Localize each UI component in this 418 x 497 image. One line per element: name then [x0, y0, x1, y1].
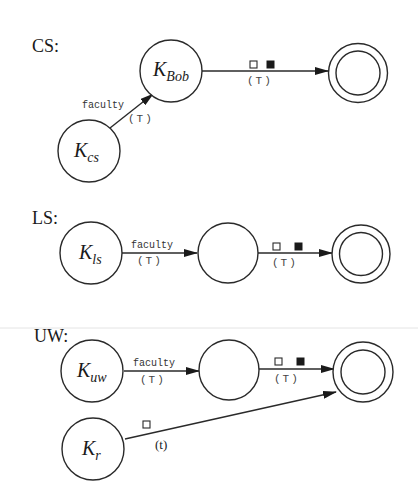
open-square-icon	[275, 358, 282, 365]
section-uw: UW: faculty (T) (T) (t) Kuw	[34, 326, 393, 480]
open-square-icon	[273, 243, 280, 250]
edge-label-faculty: faculty	[82, 100, 124, 111]
edge-annotation: (t)	[155, 437, 167, 452]
node-accept-ls	[332, 225, 390, 283]
section-cs: CS: faculty (T) (T) KBob Kcs	[32, 36, 388, 182]
node-k-cs: Kcs	[58, 120, 120, 182]
section-label-ls: LS:	[32, 208, 58, 228]
edge-annotation: (T)	[137, 255, 163, 267]
section-label-cs: CS:	[32, 36, 59, 56]
edge-annotation: (T)	[140, 374, 166, 386]
node-k-r: Kr	[62, 418, 124, 480]
node-k-uw: Kuw	[61, 340, 123, 402]
edge-annotation: (T)	[247, 75, 273, 87]
open-square-icon	[250, 61, 257, 68]
edge-annotation: (T)	[274, 373, 300, 385]
edge-label-faculty: faculty	[133, 358, 175, 369]
node-middle-ls	[198, 223, 258, 283]
node-k-ls: Kls	[60, 222, 122, 284]
node-middle-uw	[199, 340, 259, 400]
filled-square-icon	[267, 61, 274, 68]
open-square-icon	[143, 421, 150, 428]
node-accept-cs	[329, 44, 388, 103]
filled-square-icon	[295, 243, 302, 250]
section-ls: LS: faculty (T) (T) Kls	[32, 208, 390, 284]
filled-square-icon	[297, 358, 304, 365]
section-label-uw: UW:	[34, 326, 68, 346]
diagram-canvas: CS: faculty (T) (T) KBob Kcs	[0, 0, 418, 497]
edge-annotation: (T)	[272, 257, 298, 269]
node-k-bob: KBob	[140, 40, 202, 102]
node-accept-uw	[333, 342, 393, 402]
edge-annotation: (T)	[128, 113, 154, 125]
edge-label-faculty: faculty	[131, 240, 173, 251]
